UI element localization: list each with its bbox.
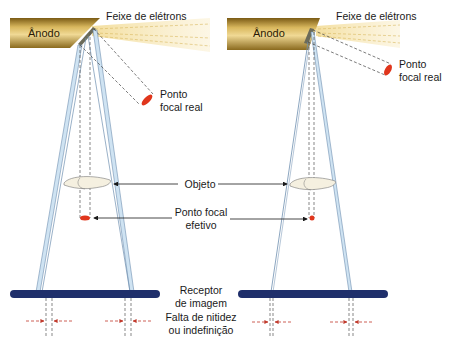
electron-beam-right [316, 20, 400, 48]
electron-beam-label-left: Feixe de elétrons [106, 10, 187, 22]
real-focal-label-right-1: Ponto [399, 58, 426, 70]
xray-beam-right-r [311, 32, 352, 292]
real-focal-label-left-1: Ponto [160, 88, 187, 100]
unsharpness-label-2: ou indefinição [163, 324, 239, 336]
object-label: Objeto [182, 178, 218, 190]
image-receptor-left [10, 290, 160, 298]
real-focal-label-right-2: focal real [399, 71, 442, 83]
receptor-label-1: Receptor [166, 284, 236, 296]
xray-beam-left-outer-l [36, 45, 82, 292]
effective-focal-label-1: Ponto focal [170, 206, 232, 218]
image-receptor-right [238, 290, 388, 298]
electron-beam-left [92, 18, 210, 52]
effective-focal-spot-right [310, 216, 315, 221]
effective-focal-spot-left [80, 216, 90, 221]
object-left [64, 177, 111, 189]
panel-right [227, 18, 400, 338]
electron-beam-label-right: Feixe de elétrons [336, 10, 417, 22]
receptor-label-2: de imagem [166, 297, 236, 309]
anode-label-left: Ânodo [28, 27, 60, 39]
real-focal-spot-left [140, 93, 154, 107]
unsharpness-label-1: Falta de nitidez [163, 311, 239, 323]
object-right [290, 178, 336, 190]
xray-beam-left-outer-r [93, 30, 134, 292]
effective-focal-label-2: efetivo [170, 219, 232, 231]
real-focal-label-left-2: focal real [160, 101, 203, 113]
anode-label-right: Ânodo [253, 27, 285, 39]
